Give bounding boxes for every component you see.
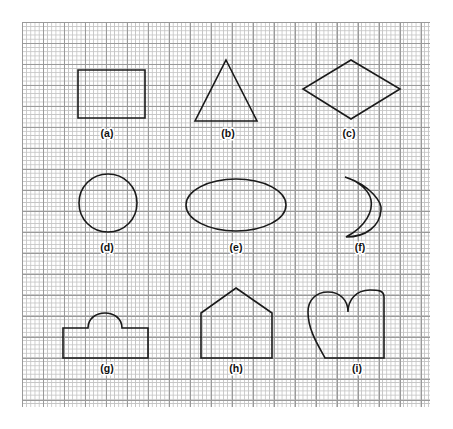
diamond-shape (303, 60, 400, 119)
house-pentagon-shape (201, 288, 272, 358)
shape-group-h: (h) (201, 288, 272, 374)
crescent-shape (345, 177, 381, 237)
shape-label-i: (i) (352, 362, 362, 374)
ellipse-shape (186, 179, 286, 231)
square-shape (78, 70, 145, 118)
shape-label-d: (d) (100, 241, 113, 253)
shape-group-i: (i) (308, 290, 384, 374)
figure-root: (a) (b) (c) (d) (e) (f) (g) (h) (0, 0, 453, 429)
circle-shape (79, 174, 137, 232)
heart-shape (308, 290, 384, 358)
shapes-layer: (a) (b) (c) (d) (e) (f) (g) (h) (0, 0, 453, 429)
shape-group-a: (a) (78, 70, 145, 139)
rectangle-with-dome-shape (63, 313, 148, 358)
shape-label-b: (b) (221, 127, 234, 139)
shape-label-g: (g) (100, 362, 113, 374)
shape-label-e: (e) (230, 241, 243, 253)
shape-label-h: (h) (229, 362, 242, 374)
shape-group-c: (c) (303, 60, 400, 139)
shape-label-c: (c) (343, 127, 356, 139)
shape-group-f: (f) (345, 177, 381, 253)
shape-label-f: (f) (355, 241, 366, 253)
shape-group-g: (g) (63, 313, 148, 374)
triangle-shape (195, 60, 257, 121)
shape-group-b: (b) (195, 60, 257, 139)
shape-group-e: (e) (186, 179, 286, 253)
shape-group-d: (d) (79, 174, 137, 253)
shape-label-a: (a) (101, 127, 114, 139)
